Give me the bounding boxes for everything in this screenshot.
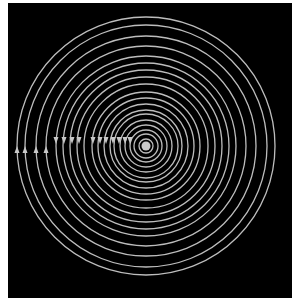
arrow-up-icon	[23, 146, 28, 153]
arrow-up-icon	[15, 146, 20, 153]
arrow-up-icon	[34, 146, 39, 153]
arrow-down-icon	[54, 137, 59, 144]
arrow-up-icon	[44, 146, 49, 153]
arrow-down-icon	[123, 137, 128, 144]
arrow-down-icon	[91, 137, 96, 144]
arrow-down-icon	[62, 137, 67, 144]
center-dot	[142, 142, 151, 151]
arrow-down-icon	[128, 137, 133, 144]
concentric-rings-diagram	[0, 0, 297, 301]
